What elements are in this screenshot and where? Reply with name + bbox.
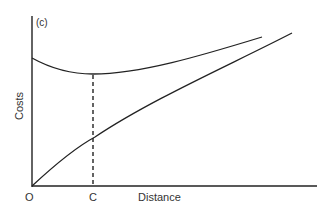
cost-distance-diagram [0, 0, 332, 214]
marker-c-label: C [89, 192, 97, 203]
u-shaped-cost-curve [32, 37, 262, 74]
rising-cost-curve [32, 33, 292, 186]
y-axis-label: Costs [14, 92, 25, 120]
x-axis-label: Distance [138, 192, 181, 203]
panel-label: (c) [36, 18, 48, 28]
origin-label: O [25, 192, 34, 203]
